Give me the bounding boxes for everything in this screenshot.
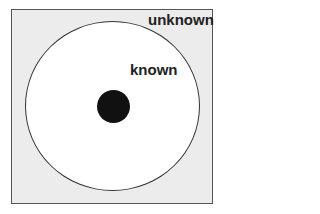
known-label: known [130, 62, 178, 77]
unknown-label: unknown [148, 12, 214, 27]
center-dot [97, 90, 130, 123]
